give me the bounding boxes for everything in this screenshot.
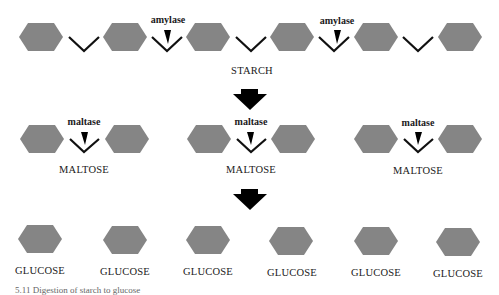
glucose-label: GLUCOSE: [183, 266, 233, 277]
glucose-label: GLUCOSE: [15, 265, 65, 276]
glycosidic-bond: [69, 37, 99, 51]
glucose-unit: [19, 23, 63, 51]
glycosidic-bond: [403, 37, 433, 51]
down-arrow-icon: [233, 189, 267, 210]
glucose-label: GLUCOSE: [433, 268, 483, 279]
glucose-label: GLUCOSE: [267, 267, 317, 278]
amylase-cut-marker: [334, 30, 341, 44]
amylase-label: amylase: [320, 15, 354, 26]
glucose-unit: [270, 23, 314, 51]
glucose-label: GLUCOSE: [351, 267, 401, 278]
glycosidic-bond: [319, 37, 349, 51]
maltose-row: [20, 125, 482, 153]
glucose-unit: [186, 23, 230, 51]
maltase-cut-marker: [247, 132, 254, 145]
glucose-unit: [103, 23, 147, 51]
maltase-cut-marker: [415, 132, 422, 145]
amylase-cut-marker: [164, 30, 171, 44]
glucose-label: GLUCOSE: [100, 266, 150, 277]
figure-caption: 5.11 Digestion of starch to glucose: [15, 285, 140, 295]
glycosidic-bond: [236, 37, 266, 51]
starch-chain: [19, 23, 482, 51]
maltose-label: MALTOSE: [393, 165, 443, 176]
amylase-label: amylase: [151, 14, 185, 25]
glucose-row: [18, 225, 480, 256]
maltase-cut-marker: [81, 132, 88, 145]
glucose-unit: [438, 23, 482, 51]
starch-label: STARCH: [231, 65, 273, 76]
down-arrow-icon: [233, 89, 267, 110]
maltose-label: MALTOSE: [59, 164, 109, 175]
maltose-label: MALTOSE: [226, 164, 276, 175]
maltase-label: maltase: [235, 116, 268, 127]
maltase-label: maltase: [68, 116, 101, 127]
maltase-label: maltase: [402, 117, 435, 128]
glucose-unit: [354, 23, 398, 51]
